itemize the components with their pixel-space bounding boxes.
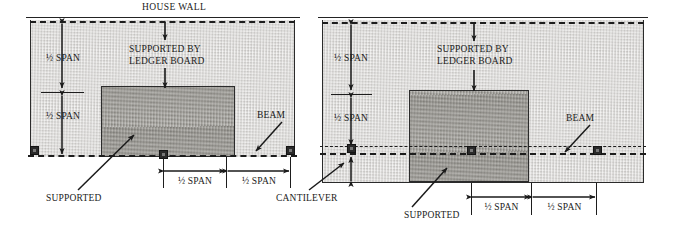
vertical-dimension-label-lower-left: ½ SPAN <box>46 111 80 121</box>
house-wall-line-right <box>318 17 648 18</box>
ledger-note-line2-left: LEDGER BOARD <box>129 56 205 68</box>
post-marker <box>593 146 602 155</box>
post-marker <box>467 146 476 155</box>
dimension-midpoint-crossbar-left <box>41 92 84 93</box>
dimension-ext-tick <box>531 183 532 215</box>
supported-label-right: SUPPORTED <box>404 210 460 220</box>
post-marker <box>286 146 295 155</box>
horizontal-dimension-label-outer-right: ½ SPAN <box>533 202 596 212</box>
post-marker <box>347 144 356 153</box>
ledger-board-dashed-line-left <box>30 21 295 23</box>
house-wall-line-left <box>26 17 300 18</box>
horizontal-dimension-label-inner-left: ½ SPAN <box>164 176 226 186</box>
dimension-ext-tick <box>290 157 291 188</box>
deck-framing-diagram: HOUSE WALL ½ SPAN ½ SPAN SUPPORTED BY LE… <box>0 0 676 242</box>
horizontal-dimension-label-inner-right: ½ SPAN <box>472 202 531 212</box>
horizontal-dimension-label-outer-left: ½ SPAN <box>228 176 290 186</box>
dimension-ext-tick <box>226 157 227 188</box>
deck-area-right <box>409 90 529 182</box>
dimension-midpoint-crossbar-right <box>331 94 372 95</box>
cantilever-label: CANTILEVER <box>276 193 338 203</box>
ledger-note-line1-left: SUPPORTED BY <box>129 44 201 56</box>
deck-area-left <box>101 86 235 157</box>
post-marker <box>30 146 39 155</box>
dimension-ext-tick <box>596 183 597 215</box>
ledger-note-line2-right: LEDGER BOARD <box>437 56 513 68</box>
beam-label-right: BEAM <box>566 113 594 123</box>
vertical-dimension-label-upper-right: ½ SPAN <box>334 53 368 63</box>
vertical-dimension-label-lower-right: ½ SPAN <box>334 113 368 123</box>
ledger-note-line1-right: SUPPORTED BY <box>437 44 509 56</box>
supported-label-left: SUPPORTED <box>46 193 102 203</box>
ledger-board-dashed-line-right <box>322 22 644 24</box>
vertical-dimension-label-upper-left: ½ SPAN <box>46 53 80 63</box>
diagram-title: HOUSE WALL <box>142 2 206 12</box>
beam-label-left: BEAM <box>257 110 285 120</box>
